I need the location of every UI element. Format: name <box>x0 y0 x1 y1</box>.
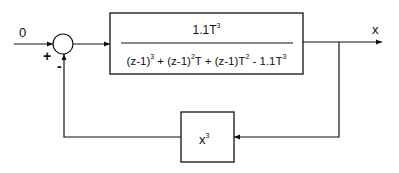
feedback-block-label: x3 <box>199 132 209 146</box>
den-term-3: T + (z-1)T <box>195 55 246 67</box>
numerator-coef: 1.1T <box>193 23 217 37</box>
den-exp-4: 3 <box>283 53 287 60</box>
den-term-4: - 1.1T <box>249 55 282 67</box>
numerator-exp: 3 <box>217 22 221 29</box>
minus-sign: - <box>57 59 62 73</box>
numerator: 1.1T3 <box>110 22 303 37</box>
feedback-exp: 3 <box>206 132 210 139</box>
plus-sign: + <box>43 49 51 63</box>
den-term-1: (z-1) <box>127 55 151 67</box>
summing-junction-circle <box>53 34 73 54</box>
den-term-2: + (z-1) <box>154 55 191 67</box>
transfer-function: 1.1T3 (z-1)3 + (z-1)2T + (z-1)T2 - 1.1T3 <box>110 13 303 74</box>
input-label: 0 <box>19 26 26 39</box>
output-label: x <box>372 23 379 36</box>
denominator: (z-1)3 + (z-1)2T + (z-1)T2 - 1.1T3 <box>110 53 303 67</box>
